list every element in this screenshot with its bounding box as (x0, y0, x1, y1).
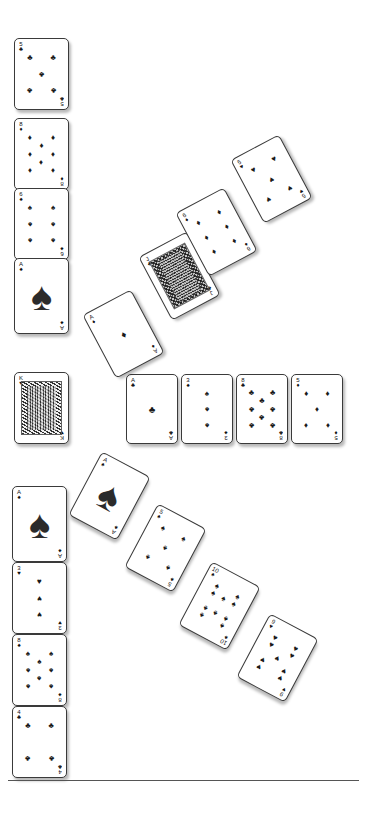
pip: ♠ (212, 609, 220, 618)
pip: ♠ (165, 563, 173, 572)
pip: ♠ (49, 682, 53, 690)
card-index-br: 4♣ (56, 764, 64, 775)
card-5-of-clubs[interactable]: 5♣5♣♣♣♣♣♣ (14, 38, 69, 110)
card-pip-grid: ♣♣♣♣♣♣♣♣ (246, 382, 278, 436)
card-pip-grid: ♦♦♦♦♦ (301, 382, 333, 436)
pip: ♠ (51, 220, 55, 228)
card-8-of-diamonds[interactable]: 8♦8♦♦♦♦♦♦♦♦♦ (14, 118, 69, 190)
court-card-art (21, 381, 62, 435)
card-center-pip: ♣ (127, 375, 177, 443)
card-pip-grid: ♠♠♠♠♠ (137, 515, 194, 581)
card-3-of-hearts[interactable]: 3♥3♥♥♥♥ (12, 562, 67, 634)
pip: ♣ (270, 389, 275, 397)
pip: ♥ (265, 194, 273, 203)
pip: ♥ (268, 174, 276, 183)
pip: ♣ (51, 54, 56, 62)
pip: ♣ (259, 413, 264, 421)
pip: ♦ (51, 166, 55, 174)
pip: ♦ (28, 134, 32, 142)
game-board: 5♣5♣♣♣♣♣♣8♦8♦♦♦♦♦♦♦♦♦6♠6♠♠♠♠♠♠♠A♠A♠♠K♥K♥… (0, 0, 367, 815)
pip: ♣ (27, 86, 32, 94)
pip: ♣ (249, 421, 254, 429)
card-center-pip: ♠ (13, 487, 66, 561)
card-index-br: 5♦ (332, 430, 340, 441)
card-a-of-spades[interactable]: A♠A♠♠ (12, 486, 67, 562)
pip: ♠ (162, 543, 170, 552)
card-3-of-spades[interactable]: 3♠3♠♠♠♠ (181, 374, 233, 444)
pip: ♥ (256, 662, 264, 671)
pip: ♦ (210, 247, 217, 256)
pip: ♣ (51, 86, 56, 94)
pip: ♦ (28, 166, 32, 174)
pip: ♠ (28, 236, 32, 244)
card-pip-grid: ♠♠♠♠♠♠♠♠♠♠ (191, 573, 248, 639)
card-index-br: 8♣ (277, 430, 285, 441)
card-a-of-spades[interactable]: A♠A♠♠ (14, 258, 69, 334)
pip: ♦ (39, 158, 43, 166)
pip: ♠ (159, 524, 167, 533)
pip: ♠ (26, 666, 30, 674)
pip: ♣ (270, 405, 275, 413)
pip: ♥ (274, 653, 282, 662)
pip: ♣ (49, 754, 54, 762)
pip: ♥ (285, 183, 293, 192)
pip: ♣ (49, 722, 54, 730)
pip: ♦ (195, 219, 202, 228)
pip: ♣ (249, 405, 254, 413)
card-8-of-clubs[interactable]: 8♣8♣♣♣♣♣♣♣♣♣ (236, 374, 288, 444)
card-center-pip: ♠ (70, 453, 150, 540)
card-center-pip: ♠ (15, 259, 68, 333)
pip: ♥ (276, 673, 284, 682)
pip: ♠ (28, 220, 32, 228)
pip: ♣ (249, 389, 254, 397)
pip: ♥ (270, 155, 278, 164)
pip: ♠ (49, 650, 53, 658)
card-pip-grid: ♠♠♠ (191, 382, 223, 436)
pip: ♠ (26, 682, 30, 690)
pip: ♠ (205, 405, 209, 413)
card-5-of-spades[interactable]: 5♠5♠♠♠♠♠♠ (124, 503, 206, 592)
card-pip-grid: ♣♣♣♣ (22, 714, 57, 770)
card-pip-grid: ♥♥♥♥♥ (243, 146, 300, 212)
pip: ♠ (205, 390, 209, 398)
pip: ♠ (144, 552, 152, 561)
card-index-br: 8♠ (56, 692, 64, 703)
pip: ♠ (51, 204, 55, 212)
card-5-of-diamonds[interactable]: 5♦5♦♦♦♦♦♦ (291, 374, 343, 444)
card-6-of-spades[interactable]: 6♠6♠♠♠♠♠♠♠ (14, 188, 69, 260)
card-k-of-hearts[interactable]: K♥K♥ (14, 372, 69, 444)
pip: ♠ (230, 600, 238, 609)
pip: ♠ (37, 674, 41, 682)
card-5-of-hearts[interactable]: 5♥5♥♥♥♥♥♥ (230, 134, 312, 223)
card-a-of-diamonds[interactable]: A♦A♦♦ (82, 289, 164, 378)
pip: ♠ (51, 236, 55, 244)
pip: ♥ (288, 652, 296, 661)
pip: ♠ (180, 535, 188, 544)
pip: ♦ (315, 405, 319, 413)
pip: ♣ (27, 54, 32, 62)
pip: ♦ (223, 222, 230, 231)
card-center-pip: ♦ (84, 291, 164, 378)
pip: ♠ (209, 589, 217, 598)
pip: ♦ (28, 150, 32, 158)
pip: ♦ (326, 421, 330, 429)
pip: ♥ (267, 641, 275, 650)
table-baseline (8, 780, 359, 781)
pip: ♥ (37, 610, 42, 618)
pip: ♣ (259, 397, 264, 405)
card-a-of-spades[interactable]: A♠A♠♠ (68, 451, 150, 540)
card-pip-grid: ♦♦♦♦♦♦♦♦ (24, 126, 59, 182)
card-9-of-hearts[interactable]: 9♥9♥♥♥♥♥♥♥♥♥♥ (236, 613, 318, 702)
pip: ♠ (219, 621, 227, 630)
card-pip-grid: ♣♣♣♣♣ (24, 46, 59, 102)
card-index-br: 3♥ (56, 620, 64, 631)
card-a-of-clubs[interactable]: A♣A♣♣ (126, 374, 178, 444)
card-4-of-clubs[interactable]: 4♣4♣♣♣♣♣ (12, 706, 67, 778)
card-10-of-spades[interactable]: 10♠10♠♠♠♠♠♠♠♠♠♠♠ (178, 561, 260, 650)
card-pip-grid: ♠♠♠♠♠♠ (24, 196, 59, 252)
card-pip-grid: ♥♥♥ (22, 570, 57, 626)
card-pip-grid: ♠♠♠♠♠♠♠♠ (22, 642, 57, 698)
pip: ♦ (51, 134, 55, 142)
card-8-of-spades[interactable]: 8♠8♠♠♠♠♠♠♠♠♠ (12, 634, 67, 706)
pip: ♦ (304, 421, 308, 429)
